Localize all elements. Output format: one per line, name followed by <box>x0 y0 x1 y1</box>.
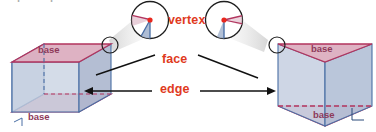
vertex-dot-left <box>147 17 152 22</box>
callout-label-vertex: vertex <box>168 14 205 27</box>
base-label-right-top: base <box>311 44 333 54</box>
callout-label-face: face <box>162 53 187 66</box>
left-prism <box>12 44 111 126</box>
diagram-canvas: • | • | • <box>0 0 376 132</box>
base-label-left-bottom: base <box>28 112 50 122</box>
callout-label-edge: edge <box>160 83 190 96</box>
base-label-left-top: base <box>38 45 60 55</box>
vertex-dot-right <box>221 17 226 22</box>
left-prism-right-angle-mark <box>14 118 22 126</box>
base-label-right-bottom: base <box>313 110 335 120</box>
left-prism-front-face <box>12 62 79 112</box>
